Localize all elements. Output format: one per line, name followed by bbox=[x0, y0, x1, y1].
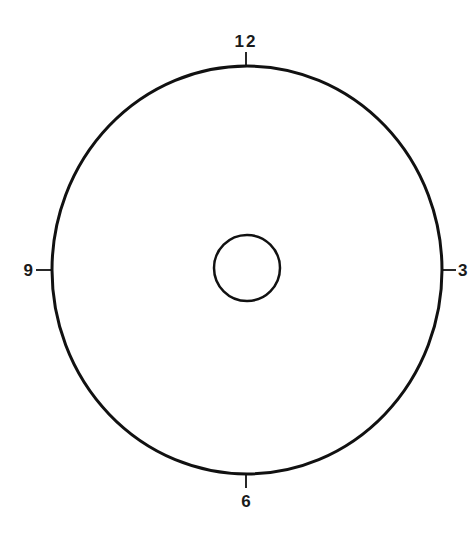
clock-center-circle bbox=[214, 235, 280, 301]
label-3: 3 bbox=[458, 261, 467, 280]
label-9: 9 bbox=[24, 261, 33, 280]
label-12: 12 bbox=[235, 32, 258, 51]
label-6: 6 bbox=[241, 492, 250, 511]
clock-face-diagram: 12 3 6 9 bbox=[0, 0, 476, 539]
clock-outer-ring bbox=[52, 66, 442, 474]
